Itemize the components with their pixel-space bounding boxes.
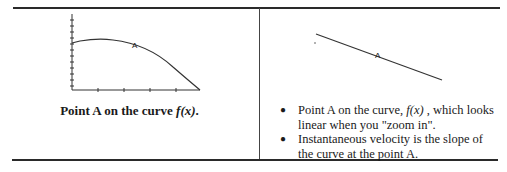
bullet-icon: ● (280, 132, 286, 147)
bullet-func: f(x) (406, 103, 423, 117)
left-caption: Point A on the curve f(x). (0, 103, 259, 119)
zoomed-line-graph: A (310, 28, 450, 88)
column-divider (259, 8, 260, 160)
top-rule (13, 7, 500, 9)
explanation-list: ● Point A on the curve, f(x) , which loo… (268, 103, 498, 161)
list-item: ● Point A on the curve, f(x) , which loo… (268, 103, 498, 132)
bullet-text: Instantaneous velocity is the slope of t… (298, 132, 483, 161)
bullet-icon: ● (280, 103, 286, 118)
list-item: ● Instantaneous velocity is the slope of… (268, 132, 498, 161)
caption-func: f(x) (176, 103, 196, 118)
curve-graph: A (68, 12, 208, 92)
point-a-label: A (375, 51, 381, 60)
point-a-label: A (132, 41, 138, 50)
bullet-text: Point A on the curve, (298, 103, 406, 117)
caption-suffix: . (196, 103, 199, 118)
caption-text: Point A on the curve (60, 103, 176, 118)
